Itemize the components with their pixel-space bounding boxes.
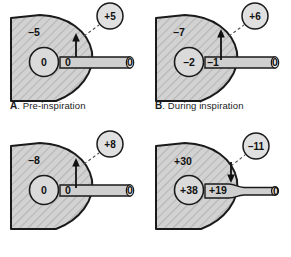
panel-b-caption-text: . During inspiration (162, 100, 243, 111)
panel-a-caption: A. Pre-inspiration (0, 100, 146, 111)
transmural-badge-label: +5 (104, 11, 116, 22)
panel-a-caption-text: . Pre-inspiration (17, 100, 85, 111)
airway-pressure-label: 0 (65, 184, 71, 196)
pleural-pressure-label: –5 (28, 26, 40, 38)
pleural-pressure-label: –7 (173, 26, 185, 38)
mouth-pressure-label: 0 (127, 184, 133, 196)
panel-during-inspiration: +6 –2 –7 –1 0 B. During inspiration (145, 0, 291, 130)
panel-b-caption: B. During inspiration (145, 100, 291, 111)
badge-leader-line (231, 155, 245, 166)
panel-b-diagram: +6 –2 –7 –1 0 (145, 0, 291, 110)
mouth-pressure-label: 0 (273, 185, 279, 197)
badge-leader-line (229, 25, 244, 36)
mouth-pressure-label: 0 (127, 56, 133, 68)
airway-pressure-label: +19 (209, 184, 227, 196)
alveolar-pressure-label: –2 (183, 56, 195, 68)
airway-pressure-label: 0 (65, 56, 71, 68)
panel-end-inspiration: +8 0 –8 0 0 (0, 128, 146, 257)
pleural-pressure-label: –8 (28, 154, 40, 166)
badge-leader-line (84, 25, 99, 36)
alveolar-pressure-label: 0 (41, 56, 47, 68)
badge-leader-line (84, 153, 99, 164)
transmural-badge-label: –11 (248, 141, 265, 152)
panel-forced-expiration: –11 +38 +30 +19 0 (145, 128, 291, 257)
pleural-pressure-label: +30 (174, 155, 192, 167)
mouth-pressure-label: 0 (272, 56, 278, 68)
transmural-badge-label: +6 (249, 11, 261, 22)
alveolar-pressure-label: 0 (41, 184, 47, 196)
transmural-badge-label: +8 (104, 139, 116, 150)
panel-a-diagram: +5 0 –5 0 0 (0, 0, 146, 110)
airway-pressure-label: –1 (207, 56, 219, 68)
panel-d-diagram: –11 +38 +30 +19 0 (145, 128, 291, 238)
panel-pre-inspiration: +5 0 –5 0 0 A. Pre-inspiration (0, 0, 146, 130)
panel-c-diagram: +8 0 –8 0 0 (0, 128, 146, 238)
figure-root: +5 0 –5 0 0 A. Pre-inspiration (0, 0, 291, 257)
alveolar-pressure-label: +38 (180, 184, 198, 196)
